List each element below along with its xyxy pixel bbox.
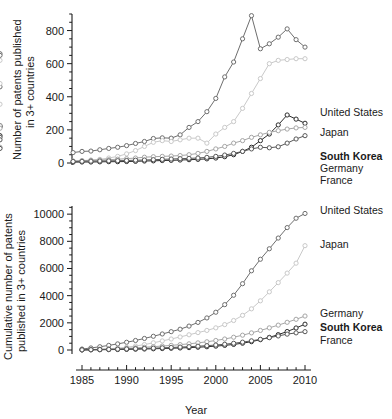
bottom-x-tick-labels: 198519901995200020052010 [70,374,317,386]
bottom-xtick-2000: 2000 [204,374,228,386]
cumulative-patents-chart: Cumulative number of patents published i… [0,192,392,419]
bottom-axis [67,206,72,354]
bottom-xtick-2005: 2005 [248,374,272,386]
bottom-ylabel-line1: Cumulative number of patents [2,213,14,360]
bottom-legend: United StatesJapanGermanySouth KoreaFran… [320,204,383,346]
panel-annual-patents: Number of patents published in 3+ countr… [0,0,392,192]
bottom-ytick-8000: 8000 [40,235,64,247]
bottom-ytick-0: 0 [58,344,64,356]
panel-cumulative-patents: Cumulative number of patents published i… [0,192,392,419]
series-japan [80,244,307,352]
bottom-xtick-1990: 1990 [114,374,138,386]
bottom-ytick-4000: 4000 [40,290,64,302]
legend-south-korea: South Korea [320,150,383,162]
legend-france: France [320,334,353,346]
bottom-y-tick-labels: 0200040006000800010000 [33,208,64,356]
bottom-y-axis-label: Cumulative number of patents published i… [2,213,27,360]
top-ytick-600: 600 [46,58,64,70]
legend-japan: Japan [320,238,349,250]
legend-france: France [320,174,353,186]
series-united-states [80,211,307,351]
bottom-ytick-2000: 2000 [40,317,64,329]
top-y-tick-labels: 0200400600800 [46,25,64,169]
x-axis-label: Year [185,404,208,416]
bottom-xtick-2010: 2010 [293,374,317,386]
figure-root: Number of patents published in 3+ countr… [0,0,392,419]
top-ylabel-line2: in 3+ countries [24,56,36,128]
bottom-ytick-10000: 10000 [33,208,64,220]
legend-germany: Germany [320,307,364,319]
bottom-series-group [80,211,307,352]
legend-united-states: United States [320,204,383,216]
legend-united-states: United States [320,106,383,118]
legend-germany: Germany [320,162,364,174]
top-ylabel-line1: Number of patents published [11,19,23,160]
bottom-xtick-1985: 1985 [70,374,94,386]
bottom-x-axis [76,365,311,370]
top-legend: United StatesJapanSouth KoreaGermanyFran… [320,106,383,186]
top-y-axis-label: Number of patents published in 3+ countr… [11,19,36,160]
bottom-ytick-6000: 6000 [40,262,64,274]
legend-south-korea: South Korea [320,321,383,333]
top-axis [67,14,72,165]
top-ytick-400: 400 [46,91,64,103]
bottom-xtick-1995: 1995 [159,374,183,386]
legend-japan: Japan [320,126,349,138]
top-ytick-200: 200 [46,124,64,136]
bottom-ylabel-line2: published in 3+ countries [15,230,27,352]
annual-patents-chart: Number of patents published in 3+ countr… [0,0,392,192]
top-ytick-800: 800 [46,25,64,37]
top-ytick-0: 0 [58,157,64,169]
